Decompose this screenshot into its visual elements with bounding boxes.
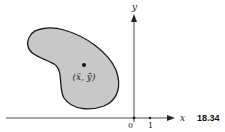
centroid-point: [82, 63, 86, 67]
origin-label: 0: [128, 121, 133, 130]
y-axis-arrow-icon: [131, 14, 137, 22]
centroid-diagram: (x̄, ȳ) x y 0 1 18.34: [0, 0, 225, 132]
x-axis-arrow-icon: [167, 115, 175, 121]
figure-number: 18.34: [197, 113, 220, 123]
y-axis-label: y: [131, 2, 138, 12]
origin-point: [133, 117, 136, 120]
centroid-label: (x̄, ȳ): [73, 72, 96, 82]
region-shape: [28, 28, 119, 109]
tick-label-1: 1: [148, 121, 153, 130]
x-axis-label: x: [180, 113, 185, 123]
unit-tick-point: [149, 117, 151, 119]
